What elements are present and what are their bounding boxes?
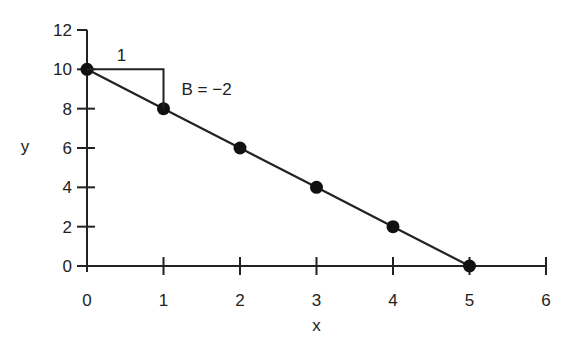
y-tick-label: 10 (53, 60, 72, 79)
slope-label: B = −2 (182, 80, 232, 99)
y-tick-label: 8 (63, 100, 72, 119)
y-tick-label: 0 (63, 257, 72, 276)
x-tick-label: 0 (82, 291, 91, 310)
annotations: 1B = −2 (87, 46, 232, 108)
x-tick-label: 4 (388, 291, 397, 310)
y-tick-label: 2 (63, 218, 72, 237)
data-point (463, 260, 476, 273)
data-series (81, 63, 477, 273)
axes (87, 30, 546, 272)
x-tick-label: 5 (465, 291, 474, 310)
y-tick-label: 6 (63, 139, 72, 158)
x-tick-label: 1 (159, 291, 168, 310)
x-tick-label: 3 (312, 291, 321, 310)
chart: 0246810120123456xy 1B = −2 (0, 0, 562, 346)
x-tick-label: 2 (235, 291, 244, 310)
x-tick-label: 6 (541, 291, 550, 310)
data-point (310, 181, 323, 194)
slope-run-label: 1 (117, 46, 126, 65)
y-axis-label: y (21, 137, 30, 156)
y-tick-label: 12 (53, 21, 72, 40)
x-axis-label: x (312, 316, 321, 335)
data-line (87, 69, 470, 266)
data-point (234, 142, 247, 155)
data-point (387, 220, 400, 233)
ticks: 0246810120123456xy (21, 21, 551, 335)
y-tick-label: 4 (63, 178, 72, 197)
